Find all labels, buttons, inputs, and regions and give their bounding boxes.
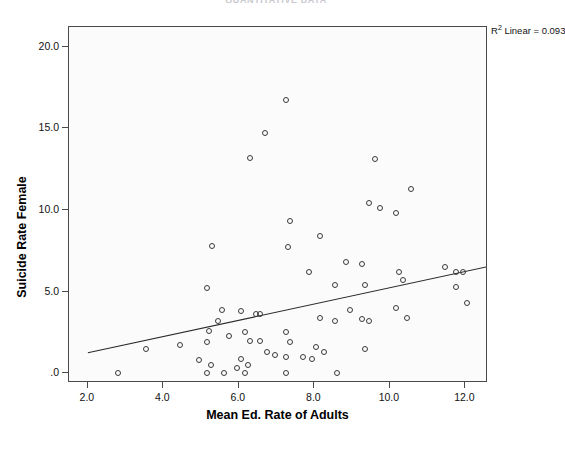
data-point bbox=[347, 307, 353, 313]
data-point bbox=[317, 233, 323, 239]
data-point bbox=[453, 269, 459, 275]
data-point bbox=[287, 218, 293, 224]
data-point bbox=[283, 329, 289, 335]
y-axis-tick-label: .0 bbox=[50, 366, 59, 378]
data-point bbox=[242, 329, 248, 335]
data-point bbox=[257, 311, 263, 317]
x-axis-tick bbox=[313, 382, 314, 388]
data-point bbox=[247, 155, 253, 161]
x-axis-tick bbox=[87, 382, 88, 388]
data-point bbox=[408, 186, 414, 192]
data-point bbox=[247, 338, 253, 344]
x-axis-tick bbox=[464, 382, 465, 388]
data-point bbox=[219, 307, 225, 313]
x-axis-tick-label: 8.0 bbox=[306, 391, 321, 403]
data-point bbox=[377, 205, 383, 211]
data-point bbox=[464, 300, 470, 306]
plot-area bbox=[68, 26, 487, 382]
data-point bbox=[115, 370, 121, 376]
data-point bbox=[332, 318, 338, 324]
data-point bbox=[393, 305, 399, 311]
data-point bbox=[313, 344, 319, 350]
data-point bbox=[204, 339, 210, 345]
data-point bbox=[283, 370, 289, 376]
data-point bbox=[262, 130, 268, 136]
data-point bbox=[143, 346, 149, 352]
y-axis-title: Suicide Rate Female bbox=[15, 157, 29, 317]
data-point bbox=[204, 370, 210, 376]
data-point bbox=[321, 349, 327, 355]
y-axis-tick-label: 20.0 bbox=[39, 40, 59, 52]
data-point bbox=[309, 356, 315, 362]
data-point bbox=[221, 370, 227, 376]
data-point bbox=[460, 269, 466, 275]
page-header-title: QUANTITATIVE DATA bbox=[0, 0, 552, 3]
x-axis-tick-label: 12.0 bbox=[454, 391, 474, 403]
x-axis-tick bbox=[238, 382, 239, 388]
data-point bbox=[393, 210, 399, 216]
data-point bbox=[359, 316, 365, 322]
data-point bbox=[264, 349, 270, 355]
data-point bbox=[177, 342, 183, 348]
data-point bbox=[283, 354, 289, 360]
data-point bbox=[272, 352, 278, 358]
data-point bbox=[400, 277, 406, 283]
data-point bbox=[300, 354, 306, 360]
x-axis-title: Mean Ed. Rate of Adults bbox=[68, 408, 487, 422]
x-axis-tick-label: 2.0 bbox=[80, 391, 95, 403]
data-point bbox=[245, 362, 251, 368]
data-point bbox=[334, 370, 340, 376]
x-axis-tick-label: 4.0 bbox=[155, 391, 170, 403]
data-point bbox=[343, 259, 349, 265]
data-point bbox=[362, 282, 368, 288]
data-point bbox=[317, 315, 323, 321]
regression-line bbox=[69, 27, 486, 381]
x-axis-tick-label: 6.0 bbox=[231, 391, 246, 403]
data-point bbox=[442, 264, 448, 270]
y-axis-tick-label: 5.0 bbox=[44, 285, 59, 297]
r2-value-text: Linear = 0.093 bbox=[504, 25, 565, 36]
data-point bbox=[242, 370, 248, 376]
x-axis-tick bbox=[162, 382, 163, 388]
data-point bbox=[196, 357, 202, 363]
y-axis: .05.010.015.020.0 Suicide Rate Female bbox=[0, 26, 68, 382]
data-point bbox=[215, 318, 221, 324]
y-axis-tick-label: 15.0 bbox=[39, 121, 59, 133]
data-point bbox=[206, 328, 212, 334]
data-point bbox=[396, 269, 402, 275]
data-point bbox=[372, 156, 378, 162]
data-point bbox=[362, 346, 368, 352]
data-point bbox=[332, 282, 338, 288]
data-point bbox=[404, 315, 410, 321]
data-point bbox=[306, 269, 312, 275]
data-point bbox=[283, 97, 289, 103]
data-point bbox=[226, 333, 232, 339]
data-point bbox=[366, 318, 372, 324]
data-point bbox=[257, 338, 263, 344]
data-point bbox=[366, 200, 372, 206]
data-point bbox=[287, 339, 293, 345]
x-axis-tick-label: 10.0 bbox=[379, 391, 399, 403]
r2-exponent: 2 bbox=[498, 24, 502, 31]
x-axis-tick bbox=[389, 382, 390, 388]
data-point bbox=[234, 365, 240, 371]
plot-inner bbox=[69, 27, 486, 381]
data-point bbox=[359, 261, 365, 267]
r2-symbol: R bbox=[491, 25, 498, 36]
data-point bbox=[238, 308, 244, 314]
data-point bbox=[208, 362, 214, 368]
data-point bbox=[238, 356, 244, 362]
y-axis-tick-label: 10.0 bbox=[39, 203, 59, 215]
r-squared-annotation: R2 Linear = 0.093 bbox=[491, 24, 565, 36]
data-point bbox=[204, 285, 210, 291]
data-point bbox=[209, 243, 215, 249]
data-point bbox=[453, 284, 459, 290]
data-point bbox=[285, 244, 291, 250]
